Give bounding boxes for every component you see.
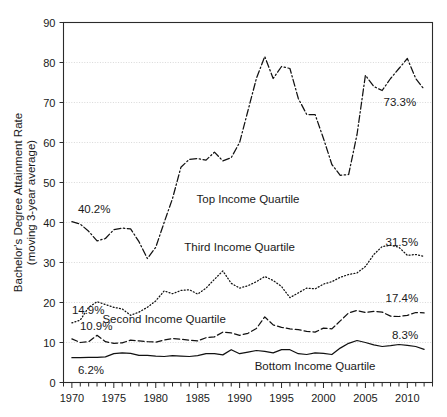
end-value-label-top-income-quartile: 73.3%	[384, 96, 417, 108]
y-tick-label-20: 20	[43, 297, 55, 309]
x-tick-label-2005: 2005	[353, 392, 377, 404]
x-tick-label-1990: 1990	[227, 392, 251, 404]
x-tick-label-1980: 1980	[144, 392, 168, 404]
x-tick-label-1995: 1995	[269, 392, 293, 404]
x-tick-label-1970: 1970	[60, 392, 84, 404]
y-tick-label-0: 0	[49, 377, 55, 389]
y-tick-label-80: 80	[43, 57, 55, 69]
y-tick-label-50: 50	[43, 177, 55, 189]
x-tick-label-2000: 2000	[311, 392, 335, 404]
x-axis-tick-labels: 197019751980198519901995200020052010	[60, 392, 420, 404]
series-label-bottom-income-quartile: Bottom Income Quartile	[255, 360, 376, 372]
end-value-label-second-income-quartile: 17.4%	[386, 292, 419, 304]
start-value-label-top-income-quartile: 40.2%	[78, 203, 111, 215]
y-tick-label-90: 90	[43, 17, 55, 29]
y-axis-tick-labels: 0102030405060708090	[43, 17, 55, 389]
y-tick-label-30: 30	[43, 257, 55, 269]
y-axis-title-line-2: (moving 3-year average)	[25, 140, 37, 265]
image-bottom-edge	[0, 410, 447, 417]
series-line-top-income-quartile	[72, 57, 424, 259]
series-label-third-income-quartile: Third Income Quartile	[184, 241, 295, 253]
start-value-label-third-income-quartile: 14.9%	[72, 304, 105, 316]
series-line-bottom-income-quartile	[72, 341, 424, 358]
x-axis-ticks	[64, 383, 433, 389]
x-tick-label-1975: 1975	[102, 392, 126, 404]
y-tick-label-40: 40	[43, 217, 55, 229]
series-inline-labels: Top Income QuartileThird Income Quartile…	[102, 193, 375, 372]
bachelors-degree-attainment-chart: 0102030405060708090 19701975198019851990…	[0, 0, 447, 417]
y-axis-ticks	[60, 23, 64, 383]
plot-gridlines	[64, 23, 433, 343]
y-tick-label-70: 70	[43, 97, 55, 109]
y-tick-label-10: 10	[43, 337, 55, 349]
x-tick-label-2010: 2010	[395, 392, 419, 404]
start-value-label-bottom-income-quartile: 6.2%	[78, 364, 104, 376]
y-axis-title-line-1: Bachelor's Degree Attainment Rate	[12, 113, 24, 292]
series-label-top-income-quartile: Top Income Quartile	[197, 193, 300, 205]
end-value-label-bottom-income-quartile: 8.3%	[392, 329, 418, 341]
y-tick-label-60: 60	[43, 137, 55, 149]
x-tick-label-1985: 1985	[185, 392, 209, 404]
series-label-second-income-quartile: Second Income Quartile	[102, 313, 225, 325]
y-axis-title: Bachelor's Degree Attainment Rate(moving…	[12, 113, 37, 292]
end-value-label-third-income-quartile: 31.5%	[386, 236, 419, 248]
start-value-label-second-income-quartile: 10.9%	[80, 320, 113, 332]
chart-canvas: 0102030405060708090 19701975198019851990…	[0, 0, 447, 417]
